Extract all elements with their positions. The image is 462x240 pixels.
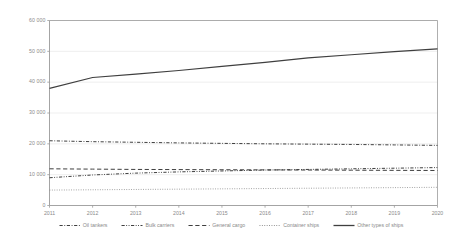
- legend-label: Other types of ships: [357, 223, 403, 228]
- legend-item[interactable]: Oil tankers: [59, 223, 108, 228]
- x-axis-tick-label: 2011: [35, 211, 65, 216]
- series-line-0: [50, 141, 438, 146]
- legend-swatch-icon: [333, 223, 355, 228]
- series-line-3: [50, 187, 438, 190]
- legend-label: Bulk carriers: [145, 223, 174, 228]
- legend-swatch-icon: [188, 223, 210, 228]
- legend-label: General cargo: [212, 223, 245, 228]
- chart-plot-area: [0, 0, 462, 240]
- chart-legend: Oil tankersBulk carriersGeneral cargoCon…: [0, 219, 462, 233]
- x-axis-tick-label: 2015: [207, 211, 237, 216]
- legend-label: Oil tankers: [83, 223, 108, 228]
- x-axis-tick-label: 2012: [78, 211, 108, 216]
- y-axis-tick-label: 20 000: [29, 141, 45, 146]
- legend-item[interactable]: Container ships: [259, 223, 319, 228]
- y-axis-tick-label: 10 000: [29, 172, 45, 177]
- x-axis-tick-label: 2016: [250, 211, 280, 216]
- legend-item[interactable]: Bulk carriers: [121, 223, 174, 228]
- x-axis-tick-label: 2017: [293, 211, 323, 216]
- legend-swatch-icon: [259, 223, 281, 228]
- y-axis-tick-label: 50 000: [29, 49, 45, 54]
- x-axis-tick-label: 2020: [423, 211, 453, 216]
- x-axis-tick-label: 2019: [379, 211, 409, 216]
- legend-item[interactable]: General cargo: [188, 223, 245, 228]
- series-line-2: [50, 169, 438, 171]
- legend-swatch-icon: [59, 223, 81, 228]
- legend-item[interactable]: Other types of ships: [333, 223, 403, 228]
- y-axis-tick-label: 30 000: [29, 110, 45, 115]
- x-axis-tick-label: 2014: [164, 211, 194, 216]
- line-chart: 010 00020 00030 00040 00050 00060 000 20…: [0, 0, 462, 240]
- legend-swatch-icon: [121, 223, 143, 228]
- x-axis-tick-label: 2013: [121, 211, 151, 216]
- y-axis-tick-label: 0: [43, 203, 46, 208]
- y-axis-tick-label: 40 000: [29, 79, 45, 84]
- x-axis-tick-label: 2018: [336, 211, 366, 216]
- legend-label: Container ships: [283, 223, 319, 228]
- y-axis-tick-label: 60 000: [29, 18, 45, 23]
